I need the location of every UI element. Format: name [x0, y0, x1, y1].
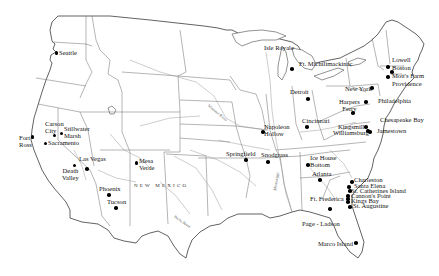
site-label-chesapeake-bay: Chesapeake Bay: [380, 117, 424, 124]
site-label-phoenix: Phoenix: [99, 186, 121, 193]
site-label-death-valley: Death Valley: [62, 168, 79, 182]
site-marker-sacramento[interactable]: [44, 142, 48, 146]
site-label-stillwater-marsh: Stillwater Marsh: [64, 126, 90, 140]
site-label-providence: Providence: [392, 81, 422, 88]
site-label-page-ladson: Page - Ladson: [302, 221, 340, 228]
site-label-cincinnati: Cincinnati: [302, 118, 329, 125]
lake-erie: [314, 68, 344, 80]
site-marker-springfield[interactable]: [244, 158, 248, 162]
site-label-seattle: Seattle: [59, 50, 77, 57]
site-marker-seattle[interactable]: [55, 51, 59, 55]
site-marker-st-augustine[interactable]: [348, 205, 352, 209]
site-marker-page-ladson[interactable]: [328, 207, 332, 211]
site-marker-las-vegas[interactable]: [85, 167, 89, 171]
site-label-jamestown: Jamestown: [377, 128, 406, 135]
site-marker-mesa-verde[interactable]: [135, 161, 139, 165]
site-label-williamsburg: Williamsburg: [333, 130, 369, 137]
site-marker-phoenix[interactable]: [107, 193, 111, 197]
site-marker-tucson[interactable]: [114, 206, 118, 210]
site-label-lowell: Lowell: [392, 57, 411, 64]
site-marker-lowell[interactable]: [386, 65, 390, 69]
us-coastline: [31, 16, 424, 258]
site-marker-motts-farm[interactable]: [386, 75, 390, 79]
site-label-motts-farm: Mott's Farm: [392, 73, 424, 80]
us-archaeological-sites-map: NEW MEXICO Missouri River Pecos River Mi…: [0, 0, 439, 276]
site-label-new-york: New York: [345, 86, 372, 93]
site-marker-marco-island[interactable]: [354, 241, 358, 245]
site-label-springfield: Springfield: [226, 151, 256, 158]
site-marker-cincinnati[interactable]: [305, 125, 309, 129]
site-label-las-vegas: Las Vegas: [79, 156, 106, 163]
site-marker-philadelphia[interactable]: [364, 100, 368, 104]
site-marker-snodgrass[interactable]: [266, 160, 270, 164]
site-label-napoleon-hollow: Napoleon Hollow: [264, 124, 290, 138]
site-marker-atlanta[interactable]: [318, 178, 322, 182]
site-marker-jamestown[interactable]: [368, 130, 372, 134]
site-label-marco-island: Marco Island: [318, 241, 353, 248]
site-marker-ft-michilimackinac[interactable]: [290, 67, 294, 71]
site-label-snodgrass: Snodgrass: [261, 152, 288, 159]
site-marker-stillwater-marsh[interactable]: [60, 132, 64, 136]
site-label-boston: Boston: [392, 65, 411, 72]
site-label-isle-royale: Isle Royale: [264, 45, 294, 52]
site-label-ice-house-bottom: Ice House Bottom: [310, 155, 337, 169]
site-marker-detroit[interactable]: [306, 97, 310, 101]
site-label-sacramento: Sacramento: [48, 140, 79, 147]
site-label-mesa-verde: Mesa Verde: [139, 158, 154, 172]
region-label-new-mexico: NEW MEXICO: [134, 183, 188, 188]
site-label-harpers-ferry: Harpers Ferry: [339, 99, 360, 113]
site-label-atlanta: Atlanta: [312, 171, 331, 178]
site-label-fort-ross: Fort Ross: [19, 135, 32, 149]
site-label-tucson: Tucson: [107, 199, 126, 206]
site-label-ft-frederica: Ft. Frederica: [310, 196, 344, 203]
site-label-st-augustine: St. Augustine: [353, 203, 389, 210]
site-label-philadelphia: Philadelphia: [378, 98, 411, 105]
site-label-ft-michilimackinac: Ft. Michilimackinac: [299, 61, 352, 68]
site-label-detroit: Detroit: [290, 89, 309, 96]
great-salt-lake: [108, 106, 116, 114]
site-marker-kings-bay[interactable]: [346, 200, 350, 204]
